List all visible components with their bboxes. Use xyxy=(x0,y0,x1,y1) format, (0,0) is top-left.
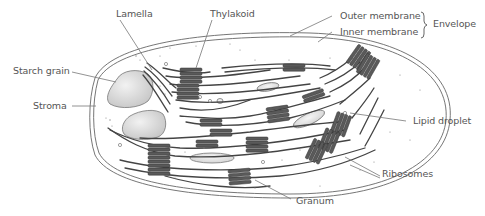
starch-grains xyxy=(108,71,166,140)
lipid-droplet-2 xyxy=(291,107,326,131)
leader-granum xyxy=(255,180,291,199)
label-lipid-droplet: Lipid droplet xyxy=(413,116,471,126)
leader-lipid-droplet xyxy=(350,113,406,121)
chloroplast-diagram: Lamella Thylakoid Outer membrane Inner m… xyxy=(0,0,485,216)
label-stroma: Stroma xyxy=(33,101,67,111)
leader-lamella xyxy=(120,20,152,70)
leader-ribosomes-1 xyxy=(345,157,380,176)
leader-ribosomes-2 xyxy=(350,165,380,178)
label-ribosomes: Ribosomes xyxy=(382,169,433,179)
label-starch-grain: Starch grain xyxy=(13,66,70,76)
label-inner-membrane: Inner membrane xyxy=(340,27,418,37)
label-lamella: Lamella xyxy=(116,9,153,19)
starch-grain-2 xyxy=(122,110,165,139)
lipid-droplet-1 xyxy=(256,81,279,93)
label-granum: Granum xyxy=(296,196,334,206)
lipid-droplet-3 xyxy=(190,153,234,163)
starch-grain-1 xyxy=(108,71,153,108)
label-envelope: Envelope xyxy=(433,19,476,29)
label-outer-membrane: Outer membrane xyxy=(340,11,421,21)
envelope-brace-icon xyxy=(421,12,427,38)
leader-thylakoid xyxy=(196,20,212,68)
label-thylakoid: Thylakoid xyxy=(210,9,255,19)
